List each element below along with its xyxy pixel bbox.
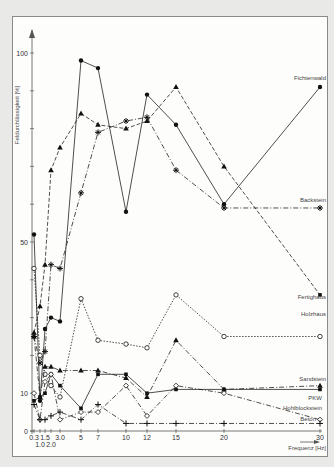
data-point-marker-icon: [32, 266, 36, 270]
data-point-marker-icon: [173, 337, 179, 342]
label-sandstein: Sandstein: [299, 376, 326, 382]
data-point-marker-icon: [318, 85, 322, 89]
data-point-marker-icon: [78, 368, 84, 373]
series-fichtenwald: [32, 58, 322, 403]
label-backstein: Backstein: [300, 197, 326, 203]
x-tick-label: 10: [122, 434, 130, 441]
data-point-marker-icon: [58, 417, 63, 422]
data-point-marker-icon: [48, 413, 54, 419]
x-tick-label: 2.0: [46, 441, 56, 448]
data-point-marker-icon: [221, 163, 227, 168]
data-point-marker-icon: [57, 368, 63, 373]
data-point-marker-icon: [57, 265, 63, 271]
data-point-marker-icon: [37, 303, 43, 308]
data-point-marker-icon: [317, 420, 323, 426]
data-point-marker-icon: [318, 388, 322, 392]
data-point-marker-icon: [58, 395, 62, 399]
data-point-marker-icon: [57, 145, 63, 150]
x-tick-label: 5: [79, 434, 83, 441]
data-point-marker-icon: [79, 297, 83, 301]
data-point-marker-icon: [32, 232, 36, 236]
data-point-marker-icon: [144, 420, 150, 426]
data-point-marker-icon: [78, 190, 84, 196]
x-tick-label: 1.5: [40, 434, 50, 441]
data-point-marker-icon: [123, 118, 129, 124]
data-point-marker-icon: [124, 342, 128, 346]
x-tick-label: 20: [220, 434, 228, 441]
data-point-marker-icon: [221, 420, 227, 426]
data-point-marker-icon: [174, 123, 178, 127]
data-point-marker-icon: [58, 384, 62, 388]
data-point-marker-icon: [145, 92, 149, 96]
series-hohlblockstein: [32, 372, 323, 422]
y-tick-label: 100: [16, 50, 28, 57]
label-fichtenwald: Fichtenwald: [294, 75, 326, 81]
x-tick-label: 30: [316, 434, 324, 441]
line-chart: 010501000.31.01.52.03.0571012152030 Fich…: [0, 0, 334, 467]
data-point-marker-icon: [95, 122, 101, 127]
label-hohlblockstein: Hohlblockstein: [283, 405, 322, 411]
data-point-marker-icon: [124, 210, 128, 214]
series-line: [34, 374, 320, 408]
data-point-marker-icon: [42, 262, 48, 267]
data-point-marker-icon: [95, 129, 101, 135]
y-axis-arrow-icon: [29, 29, 35, 38]
series-pkw: [32, 373, 322, 411]
data-point-marker-icon: [222, 391, 227, 396]
y-axis-label: Feldurchlässigkeit [%]: [14, 85, 20, 144]
series-line: [34, 268, 320, 397]
data-point-marker-icon: [173, 84, 179, 89]
x-tick-label: 15: [172, 434, 180, 441]
data-point-marker-icon: [48, 167, 54, 172]
data-point-marker-icon: [145, 391, 149, 395]
data-point-marker-icon: [96, 338, 100, 342]
data-point-marker-icon: [96, 66, 100, 70]
data-point-marker-icon: [79, 58, 83, 62]
series-line: [34, 405, 320, 424]
data-point-marker-icon: [124, 373, 128, 377]
x-tick-label: 7: [96, 434, 100, 441]
data-point-marker-icon: [58, 319, 62, 323]
data-point-marker-icon: [124, 383, 129, 388]
data-point-marker-icon: [38, 353, 42, 357]
data-point-marker-icon: [317, 205, 323, 211]
axes: 010501000.31.01.52.03.0571012152030: [16, 29, 324, 448]
data-point-marker-icon: [79, 410, 84, 415]
series-group: [31, 58, 323, 426]
data-point-marker-icon: [48, 364, 54, 369]
data-point-marker-icon: [95, 368, 101, 373]
data-point-marker-icon: [96, 373, 100, 377]
label-beton: Beton: [300, 416, 316, 422]
data-point-marker-icon: [174, 383, 179, 388]
x-tick-label: 0.3: [29, 434, 39, 441]
series-holzhaus: [32, 266, 322, 399]
series-line: [34, 374, 320, 419]
y-tick-label: 0: [24, 428, 28, 435]
data-point-marker-icon: [173, 420, 179, 426]
data-point-marker-icon: [38, 399, 42, 403]
data-point-marker-icon: [42, 364, 48, 369]
data-point-marker-icon: [145, 413, 150, 418]
data-point-marker-icon: [78, 110, 84, 115]
label-holzhaus: Holzhaus: [301, 311, 326, 317]
data-point-marker-icon: [38, 395, 42, 399]
data-point-marker-icon: [42, 417, 48, 423]
x-axis-label: Frequenz [Hz]: [288, 445, 326, 451]
data-point-marker-icon: [222, 334, 226, 338]
data-point-marker-icon: [318, 334, 322, 338]
data-point-marker-icon: [123, 420, 129, 426]
data-point-marker-icon: [174, 293, 178, 297]
label-pkw: PKW: [308, 395, 322, 401]
x-tick-label: 1.0: [35, 441, 45, 448]
y-tick-label: 50: [20, 239, 28, 246]
data-point-marker-icon: [145, 346, 149, 350]
x-tick-label: 3.0: [55, 434, 65, 441]
data-point-marker-icon: [317, 383, 323, 388]
data-point-marker-icon: [48, 262, 54, 268]
y-tick-label: 10: [20, 390, 28, 397]
data-point-marker-icon: [49, 315, 53, 319]
series-line: [34, 61, 320, 401]
series-line: [34, 117, 320, 363]
label-fertighaus: Fertighaus: [298, 294, 326, 300]
x-tick-label: 12: [143, 434, 151, 441]
